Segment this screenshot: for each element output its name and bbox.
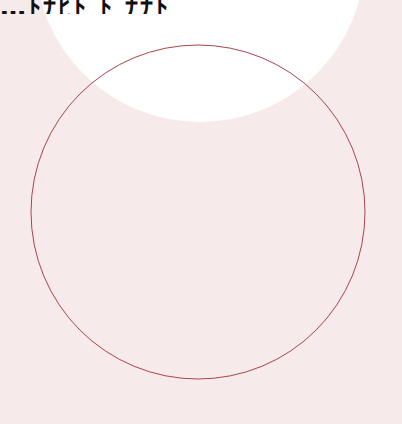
white-shape: [35, 0, 365, 122]
top-text-fragment: …ﾄﾅﾋﾄ ﾄ ﾅﾅﾄ: [0, 0, 402, 14]
illustration: [0, 0, 402, 424]
top-text-strip: …ﾄﾅﾋﾄ ﾄ ﾅﾅﾄ: [0, 0, 402, 14]
